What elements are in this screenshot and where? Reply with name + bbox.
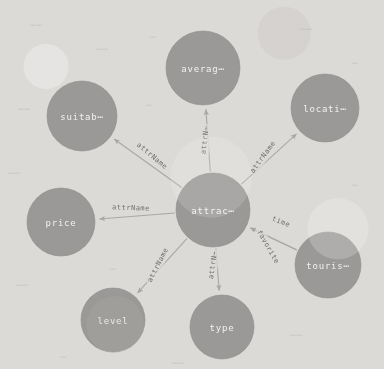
node-label: locati⋯ [303, 104, 347, 114]
nodes-layer: attrac⋯averag⋯locati⋯suitab⋯pricelevelty… [27, 31, 361, 359]
node-label: averag⋯ [181, 64, 225, 74]
graph-node-type[interactable]: type [190, 295, 254, 359]
node-label: attrac⋯ [191, 206, 235, 216]
node-label: suitab⋯ [60, 112, 104, 122]
graph-edge-e-price[interactable] [99, 213, 174, 219]
node-label: level [97, 316, 128, 326]
node-label: price [45, 218, 76, 228]
edge-label-e-average: attrN⋯ [198, 124, 211, 157]
edge-label-e-favorite: favorite [253, 227, 282, 268]
graph-node-location[interactable]: locati⋯ [291, 74, 359, 142]
graph-node-attraction[interactable]: attrac⋯ [176, 173, 250, 247]
graph-node-tourist[interactable]: touris⋯ [295, 232, 361, 298]
graph-svg: attrac⋯averag⋯locati⋯suitab⋯pricelevelty… [0, 0, 384, 369]
node-label: touris⋯ [306, 261, 350, 271]
graph-node-average[interactable]: averag⋯ [166, 31, 240, 105]
edge-label-text: favorite [255, 229, 281, 266]
edge-label-e-suitable: attrName [133, 139, 171, 173]
graph-node-suitable[interactable]: suitab⋯ [47, 81, 117, 151]
edge-label-text: attrName [146, 246, 170, 283]
node-label: type [210, 323, 235, 333]
edge-label-text: attrName [249, 139, 278, 174]
edge-label-text: attrName [112, 203, 150, 212]
graph-node-price[interactable]: price [27, 188, 95, 256]
edge-line [99, 213, 174, 219]
edge-label-e-level: attrName [144, 244, 172, 285]
graph-node-level[interactable]: level [81, 288, 145, 352]
edge-label-e-price: attrName [110, 202, 151, 213]
edge-label-e-time: time [268, 213, 293, 231]
knowledge-graph-canvas: attrac⋯averag⋯locati⋯suitab⋯pricelevelty… [0, 0, 384, 369]
edge-label-e-location: attrName [247, 137, 279, 176]
